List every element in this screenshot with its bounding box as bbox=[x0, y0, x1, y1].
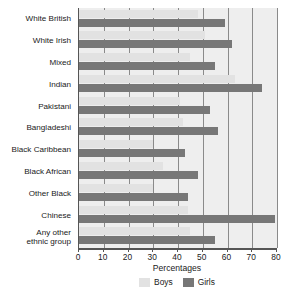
legend-item: Girls bbox=[183, 277, 215, 287]
bar-boys bbox=[79, 162, 163, 170]
bar-boys bbox=[79, 184, 153, 192]
x-tick-label: 10 bbox=[98, 252, 107, 263]
plot-area bbox=[78, 8, 277, 248]
legend-item: Boys bbox=[139, 277, 173, 287]
category-label: Bangladeshi bbox=[0, 117, 74, 139]
category-label: Indian bbox=[0, 73, 74, 95]
legend-label: Girls bbox=[198, 277, 215, 287]
category-label: Black African bbox=[0, 161, 74, 183]
bar-girls bbox=[79, 236, 215, 244]
gridline bbox=[277, 8, 278, 248]
bar-group bbox=[79, 73, 277, 95]
x-tick-label: 80 bbox=[271, 252, 280, 263]
category-label: Chinese bbox=[0, 204, 74, 226]
bar-boys bbox=[79, 75, 235, 83]
bar-chart: White BritishWhite IrishMixedIndianPakis… bbox=[0, 0, 286, 290]
bar-girls bbox=[79, 40, 232, 48]
x-tick-label: 40 bbox=[172, 252, 181, 263]
bar-group bbox=[79, 204, 277, 226]
bar-girls bbox=[79, 193, 188, 201]
bar-boys bbox=[79, 227, 190, 235]
bar-group bbox=[79, 117, 277, 139]
bar-group bbox=[79, 139, 277, 161]
category-label: White British bbox=[0, 8, 74, 30]
bar-boys bbox=[79, 53, 190, 61]
bar-group bbox=[79, 52, 277, 74]
category-axis-labels: White BritishWhite IrishMixedIndianPakis… bbox=[0, 8, 74, 248]
category-label: Mixed bbox=[0, 52, 74, 74]
bar-boys bbox=[79, 97, 180, 105]
bar-girls bbox=[79, 215, 275, 223]
bar-group bbox=[79, 30, 277, 52]
bar-group bbox=[79, 182, 277, 204]
category-label: White Irish bbox=[0, 30, 74, 52]
bar-group bbox=[79, 8, 277, 30]
boys-swatch bbox=[139, 278, 150, 287]
bar-rows bbox=[79, 8, 277, 248]
x-tick-label: 60 bbox=[222, 252, 231, 263]
x-tick-label: 50 bbox=[197, 252, 206, 263]
bar-girls bbox=[79, 84, 262, 92]
bar-girls bbox=[79, 106, 210, 114]
bar-boys bbox=[79, 206, 188, 214]
bar-group bbox=[79, 161, 277, 183]
category-label: Any other ethnic group bbox=[0, 226, 74, 248]
x-tick-label: 20 bbox=[123, 252, 132, 263]
x-axis-title: Percentages bbox=[78, 263, 276, 273]
legend-label: Boys bbox=[154, 277, 173, 287]
bar-boys bbox=[79, 10, 198, 18]
bar-girls bbox=[79, 62, 215, 70]
bar-boys bbox=[79, 31, 205, 39]
x-tick-label: 30 bbox=[148, 252, 157, 263]
x-tick-label: 0 bbox=[76, 252, 81, 263]
girls-swatch bbox=[183, 278, 194, 287]
bar-girls bbox=[79, 171, 198, 179]
bar-boys bbox=[79, 140, 153, 148]
x-tick-label: 70 bbox=[247, 252, 256, 263]
bar-girls bbox=[79, 149, 185, 157]
bar-group bbox=[79, 226, 277, 248]
bar-girls bbox=[79, 127, 218, 135]
bar-girls bbox=[79, 19, 225, 27]
category-label: Other Black bbox=[0, 182, 74, 204]
category-label: Black Caribbean bbox=[0, 139, 74, 161]
category-label: Pakistani bbox=[0, 95, 74, 117]
bar-group bbox=[79, 95, 277, 117]
bar-boys bbox=[79, 118, 183, 126]
chart-legend: BoysGirls bbox=[78, 277, 276, 287]
